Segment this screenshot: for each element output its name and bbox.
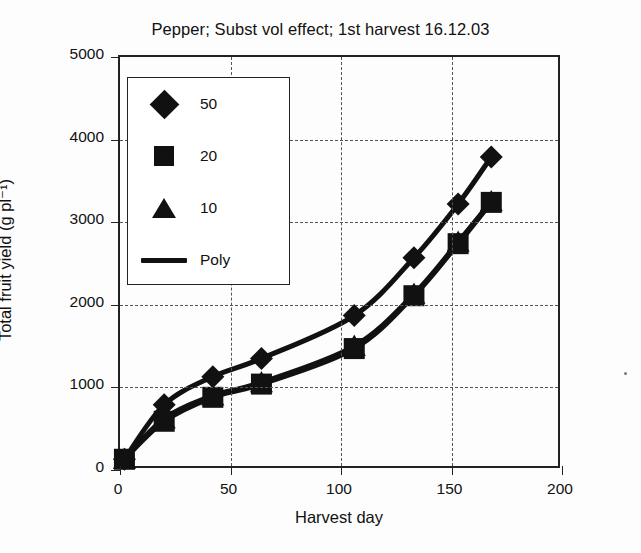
scan-artifact-dot xyxy=(624,372,627,375)
y-axis-tick xyxy=(111,140,120,141)
line-marker-icon xyxy=(128,258,200,263)
legend-label-poly: Poly xyxy=(200,251,230,269)
square-data-marker xyxy=(403,285,424,306)
y-axis-tick xyxy=(111,470,120,471)
square-data-marker xyxy=(344,338,365,359)
chart-title: Pepper; Subst vol effect; 1st harvest 16… xyxy=(0,20,641,39)
y-axis-tick xyxy=(111,57,120,58)
x-axis-tick xyxy=(452,466,453,475)
legend-label-50: 50 xyxy=(200,95,217,113)
gridline-vertical xyxy=(341,57,342,466)
square-data-marker xyxy=(202,387,223,408)
x-axis-tick xyxy=(231,466,232,475)
x-axis-tick xyxy=(341,466,342,475)
legend-label-20: 20 xyxy=(200,147,217,165)
y-axis-title: Total fruit yield (g pl⁻¹) xyxy=(0,0,15,95)
gridline-horizontal xyxy=(120,305,558,306)
y-axis-title-text: Total fruit yield (g pl⁻¹) xyxy=(0,95,15,425)
square-marker-icon xyxy=(128,146,200,166)
chart-figure: Pepper; Subst vol effect; 1st harvest 16… xyxy=(0,0,641,553)
x-axis-tick-label: 50 xyxy=(189,480,269,498)
triangle-marker-icon xyxy=(128,198,200,218)
x-axis-tick xyxy=(562,466,563,475)
y-axis-tick xyxy=(111,222,120,223)
legend-item-poly: Poly xyxy=(128,240,289,280)
diamond-data-marker xyxy=(201,365,224,388)
y-axis-tick-label: 2000 xyxy=(70,293,104,311)
legend-box: 50 20 10 Poly xyxy=(127,77,290,285)
x-axis-title: Harvest day xyxy=(118,508,560,527)
gridline-vertical xyxy=(452,57,453,466)
legend-item-20: 20 xyxy=(128,136,289,176)
y-axis-tick-label: 1000 xyxy=(70,375,104,393)
x-axis-tick-label: 100 xyxy=(299,480,379,498)
x-axis-tick-label: 0 xyxy=(78,480,158,498)
legend-item-50: 50 xyxy=(128,84,289,124)
y-axis-tick-label: 3000 xyxy=(70,210,104,228)
x-axis-tick-label: 200 xyxy=(520,480,600,498)
x-axis-tick-label: 150 xyxy=(410,480,490,498)
diamond-data-marker xyxy=(250,347,273,370)
y-axis-tick-label: 4000 xyxy=(70,128,104,146)
legend-label-10: 10 xyxy=(200,199,217,217)
gridline-horizontal xyxy=(120,387,558,388)
diamond-marker-icon xyxy=(128,94,200,115)
square-data-marker xyxy=(251,374,272,395)
y-axis-tick xyxy=(111,387,120,388)
y-axis-tick xyxy=(111,305,120,306)
y-axis-tick-label: 5000 xyxy=(70,45,104,63)
legend-item-10: 10 xyxy=(128,188,289,228)
square-data-marker xyxy=(481,192,502,213)
x-axis-tick xyxy=(120,466,121,475)
y-axis-tick-label: 0 xyxy=(95,458,104,476)
